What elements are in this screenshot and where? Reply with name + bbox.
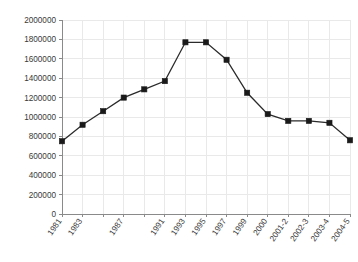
data-point-marker xyxy=(142,87,147,92)
data-point-marker xyxy=(59,139,64,144)
chart-canvas: 0200000400000600000800000100000012000001… xyxy=(0,0,358,262)
y-tick-label: 1000000 xyxy=(24,113,56,122)
y-tick-label: 200000 xyxy=(29,191,57,200)
data-point-marker xyxy=(203,40,208,45)
line-chart: 0200000400000600000800000100000012000001… xyxy=(0,0,358,262)
data-point-marker xyxy=(245,90,250,95)
y-tick-label: 1200000 xyxy=(24,94,56,103)
data-point-marker xyxy=(306,118,311,123)
y-tick-label: 600000 xyxy=(29,152,57,161)
data-point-marker xyxy=(327,120,332,125)
y-tick-label: 1600000 xyxy=(24,55,56,64)
y-tick-label: 2000000 xyxy=(24,16,56,25)
data-point-marker xyxy=(265,111,270,116)
data-point-marker xyxy=(224,57,229,62)
y-tick-label: 400000 xyxy=(29,171,57,180)
data-point-marker xyxy=(162,79,167,84)
y-tick-label: 800000 xyxy=(29,132,57,141)
data-point-marker xyxy=(80,122,85,127)
y-tick-label: 1400000 xyxy=(24,74,56,83)
data-point-marker xyxy=(183,40,188,45)
data-point-marker xyxy=(121,95,126,100)
data-point-marker xyxy=(101,109,106,114)
y-tick-label: 1800000 xyxy=(24,35,56,44)
data-point-marker xyxy=(286,118,291,123)
data-point-marker xyxy=(347,138,352,143)
